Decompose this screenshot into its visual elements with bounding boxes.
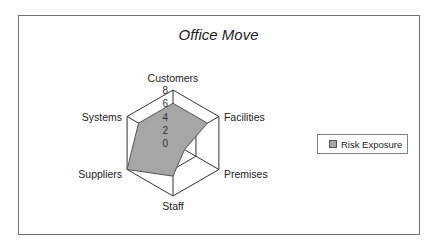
axis-label-staff: Staff xyxy=(162,200,183,212)
tick-label: 2 xyxy=(162,125,168,136)
tick-label: 6 xyxy=(162,98,168,109)
axis-label-systems: Systems xyxy=(82,111,122,123)
legend-label: Risk Exposure xyxy=(341,139,402,150)
radar-chart: CustomersFacilitiesPremisesStaffSupplier… xyxy=(0,0,437,247)
tick-label: 0 xyxy=(162,138,168,149)
axis-label-suppliers: Suppliers xyxy=(78,168,122,180)
legend-swatch-icon xyxy=(329,140,337,148)
radial-tick-labels: 02468 xyxy=(162,85,168,149)
legend: Risk Exposure xyxy=(317,134,408,154)
tick-label: 4 xyxy=(162,112,168,123)
tick-label: 8 xyxy=(162,85,168,96)
axis-label-customers: Customers xyxy=(148,72,199,84)
axis-label-premises: Premises xyxy=(224,168,268,180)
axis-label-facilities: Facilities xyxy=(224,111,265,123)
